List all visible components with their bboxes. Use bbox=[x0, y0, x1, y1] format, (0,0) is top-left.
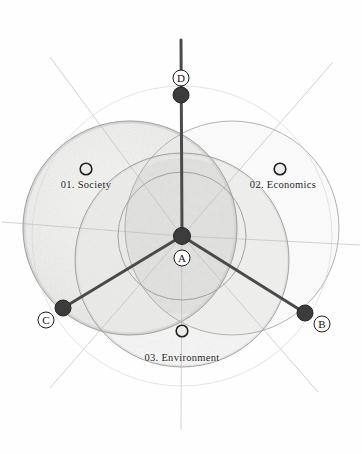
domain-marker-02[interactable] bbox=[274, 163, 286, 175]
domain-label-economics: 02. Economics bbox=[250, 179, 316, 190]
domain-marker-03[interactable] bbox=[176, 325, 188, 337]
diagram-canvas: 01. Society02. Economics03. Environment … bbox=[0, 0, 362, 454]
node-dot-b[interactable] bbox=[297, 305, 313, 321]
domain-label-society: 01. Society bbox=[61, 179, 112, 190]
domain-marker-01[interactable] bbox=[80, 163, 92, 175]
node-dot-d[interactable] bbox=[173, 87, 189, 103]
domain-label-environment: 03. Environment bbox=[144, 352, 219, 363]
node-label-d: D bbox=[173, 70, 190, 87]
node-label-c: C bbox=[38, 312, 55, 329]
node-dot-a[interactable] bbox=[174, 228, 191, 245]
node-label-b: B bbox=[314, 316, 331, 333]
node-dot-c[interactable] bbox=[55, 300, 71, 316]
node-label-a: A bbox=[174, 250, 191, 267]
diagram-graphics bbox=[0, 0, 362, 454]
